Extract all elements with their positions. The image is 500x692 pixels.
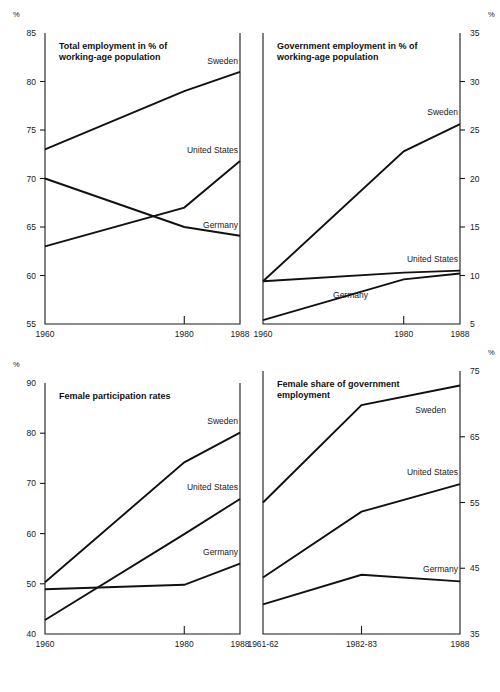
- x-tick-label: 1988: [451, 329, 470, 339]
- series-line-united-states: [45, 499, 240, 620]
- x-tick-label: 1960: [36, 639, 55, 649]
- series-label-sweden: Sweden: [427, 107, 458, 117]
- series-label-united-states: United States: [187, 145, 238, 155]
- y-tick-label: 75: [470, 366, 480, 376]
- panel-title-line: Female share of government: [277, 379, 400, 389]
- y-tick-label: 45: [470, 563, 480, 573]
- panel-government-employment: %5101520253035196019801988Government emp…: [250, 0, 500, 346]
- panel-total-employment: %55606570758085196019801988Total employm…: [0, 0, 250, 346]
- y-axis-unit-label: %: [13, 360, 20, 369]
- y-tick-label: 25: [470, 125, 480, 135]
- series-label-germany: Germany: [333, 290, 369, 300]
- panel-title-line: working-age population: [276, 52, 379, 62]
- y-tick-label: 75: [27, 125, 37, 135]
- y-tick-label: 35: [470, 28, 480, 38]
- series-line-germany: [263, 575, 460, 605]
- series-label-germany: Germany: [203, 220, 239, 230]
- y-tick-label: 50: [27, 579, 37, 589]
- x-tick-label: 1988: [231, 329, 250, 339]
- panel-title-line: Total employment in % of: [59, 41, 168, 51]
- y-tick-label: 35: [470, 629, 480, 639]
- y-tick-label: 30: [470, 77, 480, 87]
- series-label-united-states: United States: [187, 482, 238, 492]
- panel-title-line: working-age population: [58, 52, 161, 62]
- panel-title-line: Female participation rates: [59, 391, 171, 401]
- panel-title-line: employment: [277, 390, 330, 400]
- y-tick-label: 65: [27, 222, 37, 232]
- series-line-sweden: [263, 385, 460, 502]
- x-tick-label: 1980: [175, 639, 194, 649]
- x-tick-label: 1982-83: [346, 639, 377, 649]
- x-tick-label: 1960: [36, 329, 55, 339]
- y-tick-label: 80: [27, 77, 37, 87]
- series-label-united-states: United States: [407, 254, 458, 264]
- y-tick-label: 60: [27, 529, 37, 539]
- x-tick-label: 1961-62: [247, 639, 278, 649]
- series-label-united-states: United States: [407, 467, 458, 477]
- series-line-united-states: [45, 161, 240, 246]
- x-tick-label: 1988: [451, 639, 470, 649]
- series-label-sweden: Sweden: [415, 405, 446, 415]
- series-line-germany: [45, 564, 240, 590]
- series-label-germany: Germany: [423, 564, 459, 574]
- y-tick-label: 10: [470, 271, 480, 281]
- y-tick-label: 70: [27, 478, 37, 488]
- y-tick-label: 5: [470, 319, 475, 329]
- y-tick-label: 70: [27, 174, 37, 184]
- y-tick-label: 80: [27, 428, 37, 438]
- y-axis-unit-label: %: [13, 10, 20, 19]
- y-axis-unit-label: %: [488, 348, 495, 357]
- panel-title-line: Government employment in % of: [277, 41, 419, 51]
- y-tick-label: 20: [470, 174, 480, 184]
- series-label-sweden: Sweden: [207, 416, 238, 426]
- figure-four-panel-employment-charts: %55606570758085196019801988Total employm…: [0, 0, 500, 692]
- plot-frame: [45, 33, 240, 324]
- y-tick-label: 15: [470, 222, 480, 232]
- y-axis-unit-label: %: [488, 10, 495, 19]
- y-tick-label: 55: [27, 319, 37, 329]
- y-tick-label: 55: [470, 498, 480, 508]
- series-label-sweden: Sweden: [207, 56, 238, 66]
- x-tick-label: 1980: [394, 329, 413, 339]
- series-label-germany: Germany: [203, 547, 239, 557]
- panel-female-share-government: %35455565751961-621982-831988Female shar…: [250, 346, 500, 692]
- y-tick-label: 85: [27, 28, 37, 38]
- x-tick-label: 1960: [254, 329, 273, 339]
- x-tick-label: 1980: [175, 329, 194, 339]
- y-tick-label: 65: [470, 432, 480, 442]
- panel-female-participation: %405060708090196019801988Female particip…: [0, 346, 250, 692]
- y-tick-label: 40: [27, 629, 37, 639]
- y-tick-label: 60: [27, 271, 37, 281]
- series-line-sweden: [45, 72, 240, 150]
- y-tick-label: 90: [27, 378, 37, 388]
